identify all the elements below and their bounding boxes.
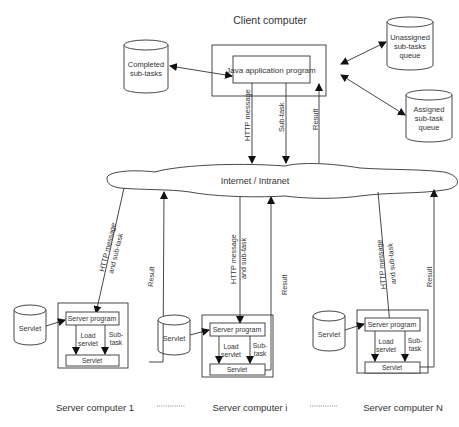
server-1-sub-label: Sub- [109, 331, 123, 338]
server-i-sub-label-2: task [254, 350, 267, 357]
server-1-store-label: Servlet [19, 324, 41, 333]
server-n-name: Server computer N [363, 402, 443, 413]
result-label: Result [311, 108, 320, 130]
server-1-load-label-2: servlet [78, 340, 98, 347]
assigned-label: Assigned [414, 105, 445, 114]
server-n-result-label: Result [425, 267, 434, 287]
server-i-http-label: HTTP message [229, 234, 238, 284]
server-1-load-label: Load [80, 332, 95, 339]
server-1-sub-label-2: task [110, 339, 123, 346]
completed-label-2: sub-tasks [130, 69, 162, 78]
network-label: Internet / Intranet [221, 176, 290, 186]
server-i-name: Server computer i [213, 402, 288, 413]
completed-label: Completed [128, 60, 164, 69]
server-1-program-label: Server program [68, 315, 117, 323]
subtask-label: Sub-task [277, 102, 286, 132]
java-program-label: Java application program [226, 66, 316, 75]
server-1-servlet-label: Servlet [82, 357, 102, 364]
unassigned-label: Unassigned [390, 33, 430, 42]
server-i-load-label: Load [223, 343, 238, 350]
server-i-store-label: Servlet [163, 334, 185, 343]
server-n-http-label-2: and sub-task [385, 242, 398, 284]
server-n-store-label: Servlet [318, 330, 340, 339]
unassigned-label-3: queue [400, 51, 421, 60]
server-n-load-label-2: servlet [376, 346, 396, 353]
server-n-servlet-label: Servlet [382, 364, 402, 371]
server-n-sub-label-2: task [409, 345, 422, 352]
server-i-sub-label: Sub- [253, 342, 267, 349]
http-message-label: HTTP message [243, 89, 252, 141]
server-n-load-label: Load [378, 338, 393, 345]
server-i-program-label: Server program [213, 326, 262, 334]
server-i-http-label-2: and sub-task [239, 237, 248, 279]
assigned-label-2: sub-task [415, 114, 444, 123]
server-n-program-label: Server program [368, 321, 417, 329]
unassigned-label-2: sub-tasks [394, 42, 426, 51]
server-n-sub-label: Sub- [408, 337, 422, 344]
distributed-computing-diagram: Client computer Java application program… [0, 0, 459, 427]
client-computer-title: Client computer [233, 14, 307, 26]
assigned-label-3: queue [419, 123, 440, 132]
server-1-result-label: Result [146, 266, 156, 287]
server-1-name: Server computer 1 [56, 402, 134, 413]
server-i-result-label: Result [280, 275, 289, 295]
server-i-load-label-2: servlet [221, 351, 241, 358]
server-i-servlet-label: Servlet [227, 366, 247, 373]
